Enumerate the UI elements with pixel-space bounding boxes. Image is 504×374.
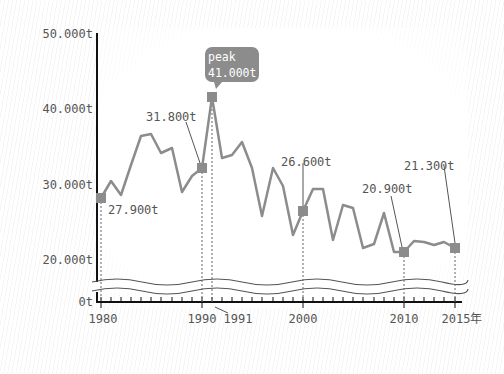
y-tick-20000: 20.000t: [42, 253, 93, 267]
annotation-2015: 21.300t: [404, 159, 455, 173]
marker-2000: [298, 206, 308, 216]
axis-break: [90, 279, 468, 294]
marker-1980: [96, 193, 106, 203]
drop-lines: [101, 97, 455, 302]
peak-value: 41.000t: [208, 66, 256, 80]
y-tick-0: 0t: [79, 295, 93, 309]
annotation-2010: 20.900t: [362, 182, 413, 196]
marker-1990: [197, 163, 207, 173]
line-chart: peak 41.000t 27.900t 31.800t 26.600t 20.…: [0, 0, 504, 374]
annotation-1980: 27.900t: [108, 203, 159, 217]
marker-1991: [207, 92, 217, 102]
y-tick-40000: 40.000t: [42, 102, 93, 116]
x-tick-2010: 2010: [390, 312, 419, 326]
x-tick-2015: 2015年: [442, 312, 483, 326]
peak-callout: peak 41.000t: [205, 47, 259, 89]
x-tick-1990: 1990: [188, 312, 217, 326]
x-tick-1991: 1991: [224, 312, 253, 326]
marker-2015: [450, 243, 460, 253]
chart-container: peak 41.000t 27.900t 31.800t 26.600t 20.…: [0, 0, 504, 374]
x-tick-2000: 2000: [289, 312, 318, 326]
annotation-2000: 26.600t: [281, 155, 332, 169]
y-tick-50000: 50.000t: [42, 27, 93, 41]
annotation-1990: 31.800t: [146, 110, 197, 124]
x-tick-1980: 1980: [89, 312, 118, 326]
y-tick-30000: 30.000t: [42, 178, 93, 192]
peak-word: peak: [208, 50, 236, 64]
marker-2010: [399, 247, 409, 257]
